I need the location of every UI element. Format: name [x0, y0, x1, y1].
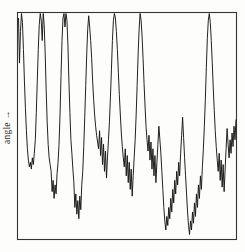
figure-container: angle → [0, 0, 245, 252]
data-trace-angle [19, 14, 237, 235]
plot-frame [18, 13, 237, 240]
plot-area [0, 0, 245, 252]
